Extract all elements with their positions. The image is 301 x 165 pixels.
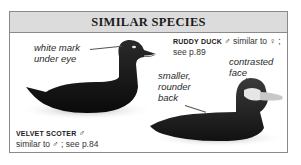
white-mark-annotation: white mark under eye (34, 42, 80, 64)
panel-header: SIMILAR SPECIES (10, 12, 287, 33)
velvet-scoter-caption: VELVET SCOTER ♂ similar to ♂ ; see p.84 (16, 128, 98, 149)
ruddy-duck-body (150, 78, 268, 141)
ruddy-duck-caption: RUDDY DUCK ♂ similar to ♀ ; see p.89 (173, 36, 281, 57)
similar-species-panel: SIMILAR SPECIES white mark under eye VEL… (9, 11, 288, 153)
white-eye-mark (132, 46, 136, 48)
ruddy-duck-illustration (148, 78, 288, 148)
bill (260, 92, 283, 101)
panel-title: SIMILAR SPECIES (91, 15, 206, 30)
contrasted-face-annotation: contrasted face (229, 56, 273, 78)
